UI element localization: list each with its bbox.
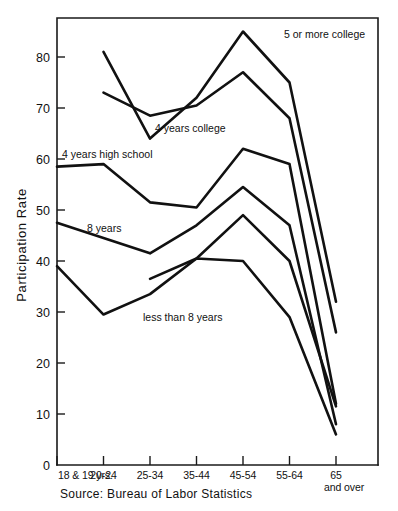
y-tick-label: 0 [43, 459, 50, 473]
y-tick-label: 10 [36, 408, 50, 422]
y-tick-label: 70 [36, 102, 50, 116]
y-axis-title: Participation Rate [14, 188, 29, 301]
y-tick-label: 40 [36, 255, 50, 269]
x-tick-label: 25-34 [137, 469, 164, 481]
y-tick-label: 50 [36, 204, 50, 218]
y-tick-label: 80 [36, 51, 50, 65]
series-annotation-4: less than 8 years [143, 311, 222, 323]
y-tick-label: 30 [36, 306, 50, 320]
series-annotation-3: 8 years [87, 222, 121, 234]
line-chart-svg: 01020304050607080 18 & 19 yrs.20-2425-34… [0, 0, 398, 511]
x-tick-label: 65and over [324, 469, 365, 493]
y-tick-label: 60 [36, 153, 50, 167]
series-annotation-2: 4 years high school [62, 148, 152, 160]
y-tick-label: 20 [36, 357, 50, 371]
y-axis-ticks [57, 57, 65, 414]
y-axis-tick-labels: 01020304050607080 [36, 51, 50, 473]
x-axis-ticks [57, 456, 336, 465]
source-caption: Source: Bureau of Labor Statistics [60, 487, 252, 501]
x-tick-label: 55-64 [276, 469, 303, 481]
series-annotation-1: 4 years college [155, 122, 226, 134]
series-line-5 [57, 258, 336, 434]
x-tick-label: 45-54 [230, 469, 257, 481]
x-tick-label: 35-44 [183, 469, 210, 481]
chart-figure: 01020304050607080 18 & 19 yrs.20-2425-34… [0, 0, 398, 511]
x-tick-label: 20-24 [90, 469, 117, 481]
series-annotation-0: 5 or more college [284, 28, 365, 40]
